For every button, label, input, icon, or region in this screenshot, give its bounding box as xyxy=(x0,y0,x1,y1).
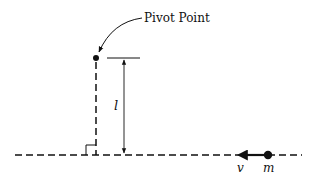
length-label: l xyxy=(114,98,118,113)
mass-dot xyxy=(264,151,272,159)
velocity-label: v xyxy=(237,161,244,175)
mass-label: m xyxy=(263,161,274,175)
pivot-point-dot xyxy=(93,55,99,61)
pivot-pointer-arrow xyxy=(99,18,142,52)
pendulum-impact-diagram: Pivot Point l v m xyxy=(0,0,317,181)
right-angle-marker xyxy=(86,145,96,155)
pivot-point-label: Pivot Point xyxy=(144,11,210,25)
